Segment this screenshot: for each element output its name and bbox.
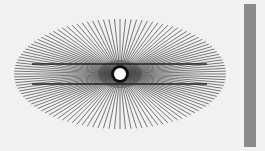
side-bar — [244, 4, 256, 147]
center-dot — [111, 65, 129, 83]
hering-illusion-figure — [0, 0, 265, 151]
